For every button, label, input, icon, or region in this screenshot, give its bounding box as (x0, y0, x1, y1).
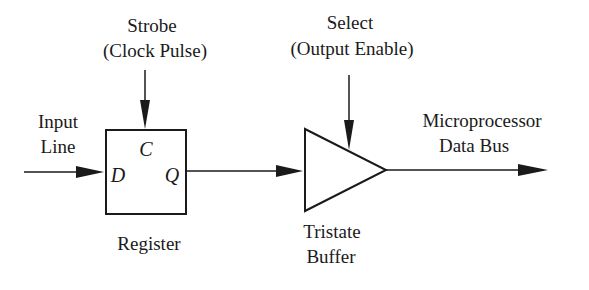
strobe-sublabel: (Clock Pulse) (103, 40, 207, 62)
diagram-canvas: Strobe (Clock Pulse) Select (Output Enab… (0, 0, 589, 290)
register-pin-d: D (110, 164, 126, 186)
buffer-label: Tristate (303, 221, 360, 242)
buffer-sublabel: Buffer (306, 246, 356, 267)
input-sublabel: Line (41, 136, 76, 157)
bus-label: Microprocessor (422, 110, 542, 131)
select-sublabel: (Output Enable) (291, 38, 414, 60)
data-bus-arrow (386, 164, 548, 176)
strobe-label: Strobe (127, 15, 177, 36)
input-arrow (24, 166, 104, 178)
register-label: Register (117, 233, 181, 254)
bus-sublabel: Data Bus (439, 135, 509, 156)
register-pin-c: C (139, 138, 153, 160)
input-label: Input (38, 111, 79, 132)
strobe-arrow (140, 70, 150, 129)
circuit-diagram: Strobe (Clock Pulse) Select (Output Enab… (0, 0, 589, 290)
tristate-buffer-triangle (305, 129, 386, 211)
select-arrow (344, 75, 354, 150)
register-to-buffer-arrow (186, 165, 303, 177)
select-label: Select (327, 12, 374, 33)
register-pin-q: Q (165, 164, 180, 186)
